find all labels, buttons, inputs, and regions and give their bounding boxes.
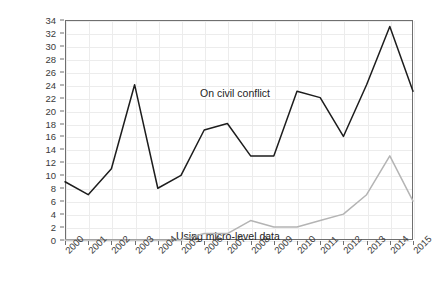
y-axis-tick-label: 4 — [51, 209, 56, 220]
gridline-horizontal — [66, 215, 412, 216]
y-axis-tick-mark — [60, 227, 64, 228]
gridline-vertical — [368, 21, 369, 239]
y-axis-tick-label: 34 — [45, 15, 56, 26]
y-axis-tick-label: 28 — [45, 53, 56, 64]
y-axis-tick-label: 26 — [45, 66, 56, 77]
y-axis-tick-label: 12 — [45, 157, 56, 168]
gridline-horizontal — [66, 202, 412, 203]
plot-area: On civil conflict Using micro-level data — [65, 20, 413, 240]
gridline-horizontal — [66, 137, 412, 138]
y-axis-tick-label: 22 — [45, 92, 56, 103]
gridline-horizontal — [66, 228, 412, 229]
y-axis-tick-mark — [60, 214, 64, 215]
gridline-vertical — [391, 21, 392, 239]
gridline-vertical — [205, 21, 206, 239]
gridline-horizontal — [66, 176, 412, 177]
gridline-horizontal — [66, 21, 412, 22]
y-axis-tick-label: 32 — [45, 27, 56, 38]
y-axis-tick-label: 2 — [51, 222, 56, 233]
y-axis-title: Total articles — [0, 0, 12, 68]
y-axis-tick-mark — [60, 97, 64, 98]
gridline-vertical — [344, 21, 345, 239]
gridline-horizontal — [66, 60, 412, 61]
y-axis-tick-mark — [60, 32, 64, 33]
y-axis-tick-mark — [60, 188, 64, 189]
y-axis-tick-label: 20 — [45, 105, 56, 116]
y-axis: Total articles 0246810121416182022242628… — [0, 20, 65, 240]
y-axis-tick-mark — [60, 123, 64, 124]
y-axis-tick-mark — [60, 201, 64, 202]
gridline-horizontal — [66, 125, 412, 126]
gridline-horizontal — [66, 47, 412, 48]
gridline-vertical — [136, 21, 137, 239]
gridline-vertical — [228, 21, 229, 239]
gridline-vertical — [414, 21, 415, 239]
y-axis-tick-label: 24 — [45, 79, 56, 90]
y-axis-tick-mark — [60, 162, 64, 163]
gridline-vertical — [112, 21, 113, 239]
gridline-horizontal — [66, 73, 412, 74]
gridline-vertical — [275, 21, 276, 239]
gridlines — [66, 21, 412, 239]
y-axis-tick-mark — [60, 175, 64, 176]
y-axis-tick-mark — [60, 110, 64, 111]
y-axis-tick-mark — [60, 20, 64, 21]
gridline-vertical — [89, 21, 90, 239]
y-axis-tick-mark — [60, 71, 64, 72]
gridline-vertical — [321, 21, 322, 239]
y-axis-tick-mark — [60, 149, 64, 150]
y-axis-tick-mark — [60, 84, 64, 85]
series-label-on-civil-conflict: On civil conflict — [200, 87, 270, 99]
x-axis: 2000200120022003200420052006200720082009… — [65, 241, 413, 293]
gridline-horizontal — [66, 150, 412, 151]
y-axis-tick-label: 0 — [51, 235, 56, 246]
gridline-vertical — [159, 21, 160, 239]
gridline-vertical — [182, 21, 183, 239]
y-axis-tick-mark — [60, 240, 64, 241]
y-axis-tick-mark — [60, 45, 64, 46]
gridline-horizontal — [66, 34, 412, 35]
y-axis-tick-label: 10 — [45, 170, 56, 181]
y-axis-tick-label: 16 — [45, 131, 56, 142]
gridline-horizontal — [66, 189, 412, 190]
gridline-vertical — [66, 21, 67, 239]
gridline-horizontal — [66, 163, 412, 164]
y-axis-tick-label: 18 — [45, 118, 56, 129]
y-axis-tick-label: 6 — [51, 196, 56, 207]
y-axis-tick-label: 8 — [51, 183, 56, 194]
y-axis-tick-mark — [60, 58, 64, 59]
y-axis-tick-mark — [60, 136, 64, 137]
gridline-vertical — [252, 21, 253, 239]
gridline-vertical — [298, 21, 299, 239]
y-axis-tick-label: 14 — [45, 144, 56, 155]
gridline-horizontal — [66, 112, 412, 113]
chart-container: Total articles 0246810121416182022242628… — [0, 0, 436, 293]
y-axis-tick-label: 30 — [45, 40, 56, 51]
